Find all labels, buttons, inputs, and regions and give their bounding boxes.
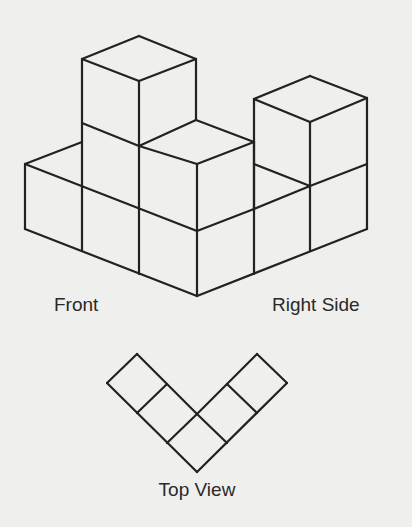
cube-edge	[254, 99, 310, 122]
cube-edge	[139, 59, 196, 81]
cube-edge	[82, 36, 139, 59]
cube-edge	[25, 229, 197, 296]
front-label: Front	[54, 294, 98, 316]
cube-edge	[197, 209, 254, 231]
cube-edge	[25, 142, 82, 164]
cube-edge	[254, 76, 310, 99]
cube-edge	[254, 186, 310, 209]
top-view-edge	[257, 354, 287, 383]
top-view-edge	[107, 354, 137, 383]
cube-edge	[139, 120, 196, 146]
top-view-edge	[167, 414, 197, 443]
cube-edge	[196, 120, 254, 142]
cube-edge	[310, 98, 367, 122]
top-view-edge	[137, 384, 167, 413]
right-side-label: Right Side	[272, 294, 360, 316]
top-view-label: Top View	[0, 479, 394, 501]
cube-edge	[139, 146, 197, 164]
cube-edge	[139, 36, 196, 59]
cube-edge	[197, 142, 254, 164]
cube-edge	[25, 164, 197, 231]
top-view-edge	[197, 414, 227, 443]
cube-edge	[254, 164, 310, 186]
top-view-edge	[227, 384, 257, 413]
isometric-figure	[25, 36, 367, 296]
isometric-cube-diagram	[0, 0, 412, 527]
cube-edge	[82, 123, 139, 146]
cube-edge	[310, 76, 367, 98]
cube-edge	[82, 59, 139, 81]
cube-edge	[197, 229, 367, 296]
top-view-figure	[107, 354, 287, 472]
cube-edge	[310, 164, 367, 186]
